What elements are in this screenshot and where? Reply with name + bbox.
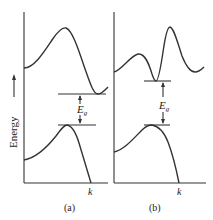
panel-b-arrowhead-down [161,119,165,124]
panel-a-k-label: k [88,186,93,197]
panel-a-gap-label: Eg [76,103,88,117]
panel-a-arrowhead-up [78,95,82,100]
panel-b-caption: (b) [149,202,161,214]
panel-a-caption: (a) [64,202,75,214]
panel-a-conduction-band [24,28,108,94]
panel-b-arrowhead-up [161,82,165,87]
panel-b-valence-band [114,125,179,183]
panel-b-k-label: k [177,186,182,197]
panel-a-arrowhead-down [78,119,82,124]
energy-label: Energy [7,116,19,148]
panel-b-gap-label: Eg [158,99,170,113]
band-diagram: Energy Eg Eg k k (a) (b) [0,0,213,220]
panel-a-valence-band [24,125,91,183]
energy-arrowhead [12,74,16,80]
panel-b-conduction-band [114,27,204,81]
